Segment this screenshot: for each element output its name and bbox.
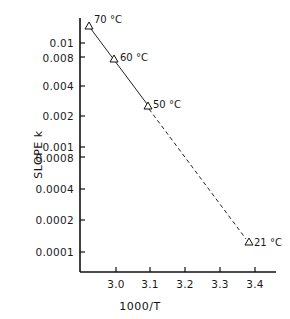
- arrhenius-chart: 0.01 0.008 0.004 0.002 0.001 0.0008 0.00…: [0, 0, 290, 319]
- triangle-marker-21c: [245, 238, 253, 245]
- y-tick-label: 0.004: [42, 80, 74, 92]
- y-tick-label: 0.0004: [35, 183, 74, 195]
- triangle-marker-50c: [144, 102, 152, 109]
- x-tick-label: 3.2: [176, 278, 194, 290]
- y-tick-label: 0.0001: [35, 246, 74, 258]
- point-label-60c: 60 °C: [120, 52, 148, 63]
- point-label-21c: 21 °C: [254, 237, 282, 248]
- y-tick-label: 0.002: [42, 110, 74, 122]
- y-axis-title: SLOPE k: [32, 130, 45, 178]
- point-label-50c: 50 °C: [153, 99, 181, 110]
- x-tick-label: 3.3: [211, 278, 229, 290]
- x-tick-label: 3.0: [107, 278, 125, 290]
- triangle-marker-70c: [85, 22, 93, 29]
- fit-line-dashed: [149, 109, 246, 239]
- y-tick-label: 0.0002: [35, 214, 74, 226]
- fit-line-solid: [91, 29, 147, 104]
- x-tick-label: 3.1: [141, 278, 159, 290]
- y-tick-label: 0.01: [49, 37, 74, 49]
- y-tick-label: 0.008: [42, 52, 74, 64]
- point-label-70c: 70 °C: [94, 14, 122, 25]
- x-tick-label: 3.4: [246, 278, 264, 290]
- x-axis-title: 1000/T: [119, 300, 160, 313]
